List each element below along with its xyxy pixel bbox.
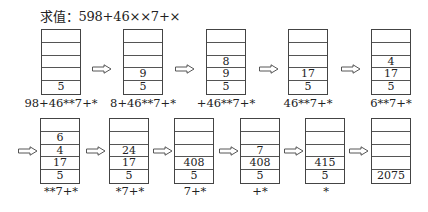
stack-state-5: 4 17 5 [371,29,411,95]
remaining-expression: 7+* [184,184,207,198]
hollow-right-arrow-icon [92,64,112,74]
stack-cell [306,132,344,145]
stack-cell [372,43,410,56]
stack-cell [175,119,213,132]
remaining-expression: 6**7+* [370,96,412,110]
hollow-right-arrow-icon [86,146,106,156]
stack-state-9: 7 408 5 [240,118,280,184]
stack-cell [207,43,245,56]
stack-cell [110,119,148,132]
stack-state-3: 8 9 5 [206,29,246,95]
stack-state-1: 5 [41,29,81,95]
stack-cell [41,119,79,132]
remaining-expression: 8+46**7+* [110,96,176,110]
remaining-expression: 46**7+* [284,96,333,110]
stack-cell: 5 [175,170,213,183]
stack-cell: 5 [306,170,344,183]
hollow-right-arrow-icon [219,146,239,156]
stack-cell: 5 [124,81,162,94]
stack-cell [175,132,213,145]
stack-state-6: 6 4 17 5 [40,118,80,184]
stack-cell [124,30,162,43]
stack-cell [306,119,344,132]
stack-cell [207,30,245,43]
stack-state-2: 9 5 [123,29,163,95]
stack-cell: 5 [207,81,245,94]
stack-state-4: 17 5 [288,29,328,95]
hollow-right-arrow-icon [18,146,38,156]
stack-state-10: 415 5 [305,118,345,184]
stack-cell [42,43,80,56]
hollow-right-arrow-icon [153,146,173,156]
remaining-expression: **7+* [44,184,78,198]
stack-cell [42,56,80,69]
remaining-expression: * [323,184,329,198]
remaining-expression: 98+46**7+* [24,96,97,110]
stack-cell [241,119,279,132]
stack-cell: 5 [289,81,327,94]
stack-cell [42,30,80,43]
stack-state-8: 408 5 [174,118,214,184]
hollow-right-arrow-icon [284,146,304,156]
diagram-title: 求值：598+46××7+× [40,6,180,25]
stack-state-11: 2075 [371,118,411,184]
stack-cell [110,132,148,145]
stack-cell: 5 [41,170,79,183]
stack-cell: 5 [42,81,80,94]
stack-cell [372,119,410,132]
remaining-expression: +46**7+* [197,96,255,110]
remaining-expression: +* [252,184,267,198]
stack-cell [372,145,410,158]
stack-cell [289,30,327,43]
stack-cell: 6 [41,132,79,145]
hollow-right-arrow-icon [341,64,361,74]
stack-cell: 5 [372,81,410,94]
hollow-right-arrow-icon [349,146,369,156]
stack-state-7: 24 17 5 [109,118,149,184]
stack-cell [372,30,410,43]
hollow-right-arrow-icon [259,64,279,74]
stack-cell: 5 [241,170,279,183]
hollow-right-arrow-icon [175,64,195,74]
stack-cell [372,132,410,145]
stack-cell [124,43,162,56]
stack-cell [241,132,279,145]
stack-cell [289,43,327,56]
remaining-expression: *7+* [116,184,144,198]
stack-cell: 5 [110,170,148,183]
stack-cell: 2075 [372,170,410,183]
